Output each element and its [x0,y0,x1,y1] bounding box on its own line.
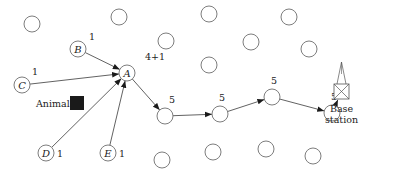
base-station-label-line2: station [325,114,358,125]
node-label: D [41,148,50,159]
sensor-node-A: A4+1 [119,51,165,81]
node-label: E [103,148,112,159]
node-weight: 1 [89,31,95,42]
sensor-node-C: C1 [14,66,38,93]
node-weight: 1 [57,148,63,159]
animal-target: Animal [35,96,84,110]
edge-R1-to-R2 [173,114,212,115]
relay-node-R1: 5 [157,94,175,124]
idle-sensor-node [158,33,174,49]
node-weight: 4+1 [145,51,165,62]
node-weight: 5 [169,94,175,105]
idle-sensor-node [305,148,321,164]
sensor-node-B: B1 [70,31,95,57]
idle-sensor-nodes [24,6,321,168]
edge-C-to-A [30,74,119,84]
idle-sensor-node [281,9,297,25]
node-weight: 5 [271,75,277,86]
idle-sensor-node [258,141,274,157]
idle-sensor-node [301,41,317,57]
edge-A-to-R1 [132,79,159,110]
relay-sensor-nodes: 5555 [157,75,340,124]
source-sensor-nodes: A4+1B1C1D1E1 [14,31,165,161]
idle-sensor-node [24,16,40,32]
edge-R2-to-R3 [228,99,265,111]
antenna-icon [337,62,346,84]
edge-B-to-A [85,53,120,70]
idle-sensor-node [111,9,127,25]
edge-E-to-A [110,81,125,145]
edge-R3-to-R4 [280,99,325,111]
base-station: Base station [325,62,358,125]
animal-marker [70,96,84,110]
idle-sensor-node [154,152,170,168]
node-label: B [73,44,81,55]
sensor-node-E: E1 [100,145,125,161]
animal-label: Animal [35,98,70,109]
node-weight: 1 [119,148,125,159]
relay-node-R2: 5 [212,92,228,122]
idle-sensor-node [205,144,221,160]
sensor-network-diagram: A4+1B1C1D1E1 5555 Animal Base station [0,0,404,174]
sensor-node-D: D1 [38,145,63,161]
base-station-label-line1: Base [330,103,354,114]
node-weight: 1 [32,66,38,77]
idle-sensor-node [201,6,217,22]
relay-node-R3: 5 [264,75,280,105]
edge-D-to-A [52,79,122,148]
node-weight: 5 [219,92,225,103]
node-label: A [122,68,130,79]
node-label: C [18,80,26,91]
idle-sensor-node [201,57,217,73]
idle-sensor-node [243,34,259,50]
